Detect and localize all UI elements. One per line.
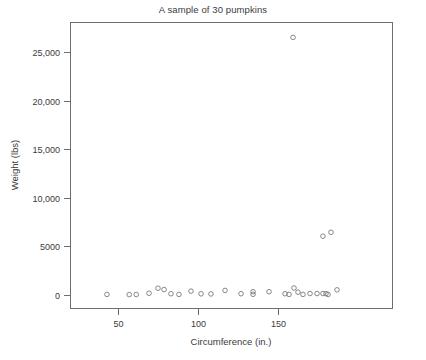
data-point bbox=[308, 291, 313, 296]
data-point bbox=[296, 290, 301, 295]
y-tick-label: 10,000 bbox=[32, 194, 60, 204]
data-point bbox=[315, 291, 320, 296]
data-point bbox=[199, 292, 204, 297]
plot-border bbox=[71, 23, 393, 309]
data-point bbox=[147, 291, 152, 296]
data-points-layer bbox=[105, 35, 340, 297]
data-point bbox=[189, 289, 194, 294]
data-point bbox=[292, 286, 297, 291]
scatter-plot-figure: A sample of 30 pumpkins 0500010,00015,00… bbox=[0, 0, 426, 360]
data-point bbox=[177, 292, 182, 297]
y-tick-label: 20,000 bbox=[32, 97, 60, 107]
y-axis-title: Weight (lbs) bbox=[9, 140, 20, 191]
data-point bbox=[239, 291, 244, 296]
y-tick-label: 25,000 bbox=[32, 48, 60, 58]
data-point bbox=[105, 292, 110, 297]
data-point bbox=[169, 291, 174, 296]
y-axis-ticks: 0500010,00015,00020,00025,000 bbox=[32, 48, 70, 301]
data-point bbox=[291, 35, 296, 40]
data-point bbox=[134, 292, 139, 297]
data-point bbox=[162, 287, 167, 292]
plot-frame bbox=[71, 23, 393, 309]
data-point bbox=[321, 234, 326, 239]
plot-canvas: 0500010,00015,00020,00025,000 50100150 W… bbox=[0, 0, 426, 360]
x-tick-label: 100 bbox=[191, 319, 206, 329]
x-tick-label: 150 bbox=[271, 319, 286, 329]
x-tick-label: 50 bbox=[113, 319, 123, 329]
data-point bbox=[156, 286, 161, 291]
data-point bbox=[127, 292, 132, 297]
data-point bbox=[335, 288, 340, 293]
data-point bbox=[267, 289, 272, 294]
x-axis-title: Circumference (in.) bbox=[191, 336, 272, 347]
data-point bbox=[329, 230, 334, 235]
data-point bbox=[301, 292, 306, 297]
data-point bbox=[223, 288, 228, 293]
y-tick-label: 15,000 bbox=[32, 145, 60, 155]
data-point bbox=[209, 292, 214, 297]
x-axis-ticks: 50100150 bbox=[113, 309, 286, 330]
y-tick-label: 0 bbox=[55, 291, 60, 301]
y-tick-label: 5000 bbox=[40, 242, 60, 252]
